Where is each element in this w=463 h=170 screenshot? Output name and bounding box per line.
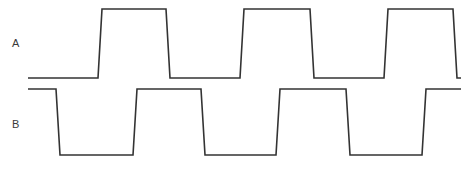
- timing-diagram-canvas: A B: [0, 0, 463, 170]
- signal-group-a: A: [12, 9, 461, 78]
- signal-label-a: A: [12, 37, 20, 49]
- signal-waveform-b: [28, 89, 461, 155]
- waveform-svg: A B: [0, 0, 463, 170]
- signal-group-b: B: [12, 89, 461, 155]
- signal-label-b: B: [12, 118, 19, 130]
- signal-waveform-a: [28, 9, 461, 78]
